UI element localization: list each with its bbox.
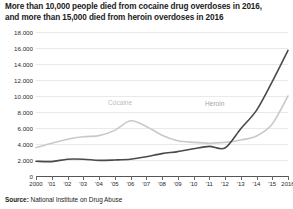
x-tick-label: '07: [142, 181, 150, 187]
y-tick-label: 4.000: [18, 141, 33, 148]
plot-area: [36, 32, 288, 176]
source-prefix: Source:: [5, 196, 29, 203]
title-line-2: and more than 15,000 died from heroin ov…: [5, 13, 289, 24]
x-tick-label: '13: [237, 181, 245, 187]
x-tick-mark: [115, 176, 116, 180]
page-title: More than 10,000 people died from cocain…: [5, 2, 289, 23]
x-tick-label: '08: [158, 181, 166, 187]
x-tick-mark: [83, 176, 84, 180]
y-axis-labels: 02.0004.0006.0008.00010.00012.00014.0001…: [0, 32, 33, 176]
x-tick-label: '06: [127, 181, 135, 187]
x-tick-label: '12: [221, 181, 229, 187]
x-tick-mark: [68, 176, 69, 180]
x-tick-label: '14: [253, 181, 261, 187]
x-tick-mark: [194, 176, 195, 180]
source-note: Source: National Institute on Drug Abuse: [5, 196, 122, 203]
y-tick-label: 8.000: [18, 109, 33, 116]
source-text: National Institute on Drug Abuse: [29, 196, 122, 203]
x-tick-mark: [225, 176, 226, 180]
series-label-cocaine: Cocaine: [108, 99, 132, 106]
x-tick-mark: [257, 176, 258, 180]
x-tick-mark: [131, 176, 132, 180]
series-label-heroin: Heroin: [205, 100, 224, 107]
x-tick-mark: [272, 176, 273, 180]
y-tick-label: 14.000: [14, 61, 33, 68]
x-tick-mark: [209, 176, 210, 180]
x-tick-label: '11: [206, 181, 213, 187]
x-tick-label: 2000: [29, 181, 42, 187]
y-tick-label: 12.000: [14, 77, 33, 84]
x-tick-mark: [178, 176, 179, 180]
x-tick-label: '05: [111, 181, 119, 187]
x-tick-label: '03: [79, 181, 87, 187]
y-tick-label: 6.000: [18, 125, 33, 132]
x-tick-mark: [241, 176, 242, 180]
x-tick-label: 2016: [281, 181, 293, 187]
x-tick-label: '10: [190, 181, 198, 187]
x-tick-label: '15: [268, 181, 276, 187]
x-tick-mark: [162, 176, 163, 180]
x-tick-label: '01: [48, 181, 56, 187]
series-line-heroin: [36, 50, 288, 161]
x-tick-mark: [288, 176, 289, 180]
x-tick-mark: [36, 176, 37, 180]
x-tick-label: '04: [95, 181, 103, 187]
y-tick-label: 2.000: [18, 157, 33, 164]
x-tick-mark: [99, 176, 100, 180]
x-tick-mark: [146, 176, 147, 180]
x-tick-label: '09: [174, 181, 182, 187]
x-tick-label: '02: [64, 181, 72, 187]
y-tick-label: 16.000: [14, 45, 33, 52]
x-tick-mark: [52, 176, 53, 180]
y-tick-label: 18.000: [14, 29, 33, 36]
y-tick-label: 0: [30, 173, 33, 180]
title-line-1: More than 10,000 people died from cocain…: [5, 2, 289, 13]
series-line-cocaine: [36, 96, 288, 148]
series-lines: [36, 32, 288, 176]
chart-container: More than 10,000 people died from cocain…: [0, 0, 293, 209]
y-tick-label: 10.000: [14, 93, 33, 100]
